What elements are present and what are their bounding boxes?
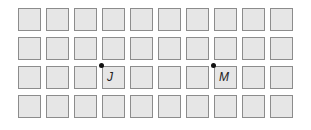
grid-square <box>186 37 209 60</box>
grid-square <box>270 8 293 31</box>
grid-square <box>74 95 97 118</box>
grid-square <box>158 37 181 60</box>
grid-square <box>102 95 125 118</box>
grid-square <box>158 8 181 31</box>
grid-square <box>46 8 69 31</box>
grid-square <box>186 8 209 31</box>
grid-square <box>46 66 69 89</box>
grid-square <box>242 8 265 31</box>
grid-square <box>242 37 265 60</box>
grid-square <box>74 8 97 31</box>
grid-square <box>18 66 41 89</box>
grid-square <box>242 66 265 89</box>
grid-square <box>214 95 237 118</box>
grid-square <box>130 66 153 89</box>
grid-square <box>46 37 69 60</box>
grid-square <box>270 66 293 89</box>
point-label: J <box>107 70 113 84</box>
grid-square <box>186 66 209 89</box>
grid-square <box>18 95 41 118</box>
grid-square <box>214 37 237 60</box>
grid-square <box>74 37 97 60</box>
point-dot <box>99 63 104 68</box>
grid-square <box>270 95 293 118</box>
grid-square <box>18 37 41 60</box>
grid-square <box>242 95 265 118</box>
grid-square <box>18 8 41 31</box>
grid-square <box>74 66 97 89</box>
grid-square <box>130 8 153 31</box>
grid-square <box>130 37 153 60</box>
grid-square <box>46 95 69 118</box>
grid-square <box>270 37 293 60</box>
grid-square <box>214 8 237 31</box>
point-dot <box>211 63 216 68</box>
grid-square <box>130 95 153 118</box>
grid-square <box>158 95 181 118</box>
grid-square <box>102 8 125 31</box>
grid-square <box>102 66 125 89</box>
square-grid: JM <box>0 0 311 130</box>
point-label: M <box>219 70 229 84</box>
grid-square <box>186 95 209 118</box>
grid-square <box>102 37 125 60</box>
grid-square <box>158 66 181 89</box>
